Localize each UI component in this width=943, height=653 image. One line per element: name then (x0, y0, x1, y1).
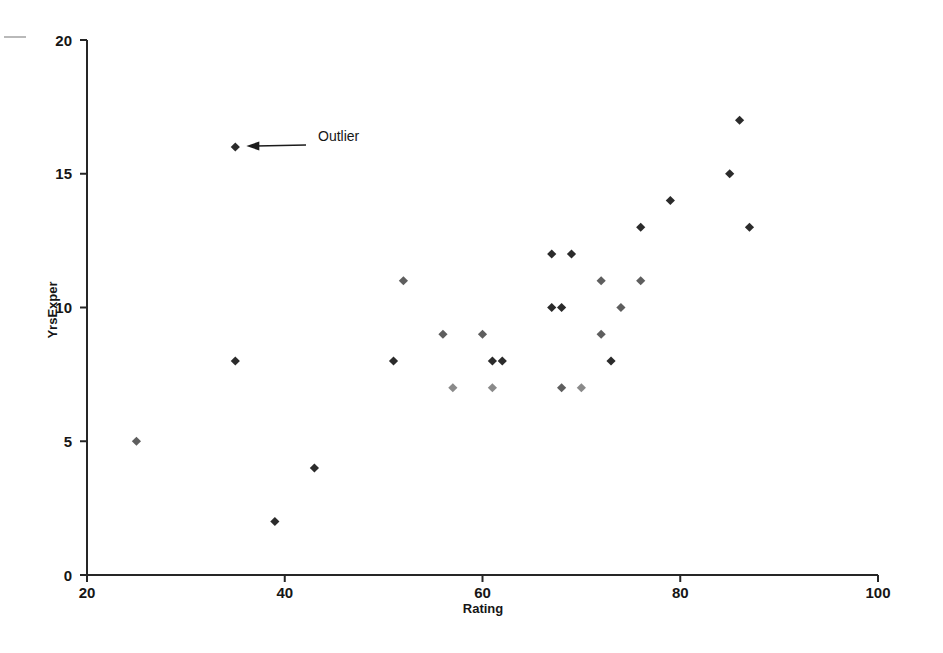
data-point-marker (577, 383, 586, 392)
outlier-annotation: Outlier (246, 128, 359, 151)
data-point-marker (567, 249, 576, 258)
x-tick-label: 80 (672, 584, 689, 601)
x-tick-label: 60 (474, 584, 491, 601)
data-point-marker (666, 196, 675, 205)
data-point-marker (597, 276, 606, 285)
data-point-marker (438, 330, 447, 339)
data-point-group (132, 116, 754, 526)
data-point-marker (636, 276, 645, 285)
data-point-marker (389, 356, 398, 365)
data-point-marker (547, 303, 556, 312)
scan-artifact (4, 36, 26, 38)
y-axis-title: YrsExper (45, 281, 60, 338)
x-axis-ticks: 20406080100 (79, 575, 891, 601)
data-point-marker (399, 276, 408, 285)
data-point-marker (636, 223, 645, 232)
x-tick-label: 100 (865, 584, 890, 601)
annotation-label: Outlier (318, 128, 360, 144)
data-point-marker (557, 303, 566, 312)
data-point-marker (270, 517, 279, 526)
x-axis-title: Rating (463, 601, 504, 616)
scatter-plot-figure: 05101520 20406080100 YrsExper Rating Out… (0, 0, 943, 653)
x-tick-label: 40 (276, 584, 293, 601)
y-tick-label: 0 (64, 567, 72, 584)
y-axis-ticks: 05101520 (55, 32, 87, 584)
data-point-marker (606, 356, 615, 365)
data-point-marker (488, 383, 497, 392)
data-point-marker (597, 330, 606, 339)
data-point-marker (616, 303, 625, 312)
data-point-marker (448, 383, 457, 392)
data-point-marker (498, 356, 507, 365)
x-tick-label: 20 (79, 584, 96, 601)
data-point-marker (745, 223, 754, 232)
y-tick-label: 5 (64, 433, 72, 450)
data-point-marker (231, 142, 240, 151)
data-point-marker (478, 330, 487, 339)
data-point-marker (132, 437, 141, 446)
annotation-leader-line (256, 145, 306, 146)
y-tick-label: 15 (55, 165, 72, 182)
scatter-plot-canvas: 05101520 20406080100 YrsExper Rating Out… (0, 0, 943, 653)
data-point-marker (231, 356, 240, 365)
data-point-marker (488, 356, 497, 365)
data-point-marker (547, 249, 556, 258)
data-point-marker (310, 463, 319, 472)
data-point-marker (557, 383, 566, 392)
annotation-arrowhead-icon (246, 142, 259, 151)
data-point-marker (725, 169, 734, 178)
y-tick-label: 20 (55, 32, 72, 49)
data-point-marker (735, 116, 744, 125)
